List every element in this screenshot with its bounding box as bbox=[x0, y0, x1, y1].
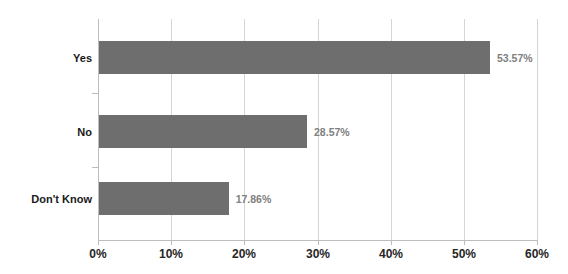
x-axis-tick-20 bbox=[244, 240, 245, 245]
bar-dont-know bbox=[98, 182, 229, 215]
bar-chart: 53.57% 28.57% 17.86% Yes No Don't Know 0… bbox=[0, 0, 568, 274]
x-tick-label-10: 10% bbox=[141, 248, 201, 260]
x-tick-label-40: 40% bbox=[361, 248, 421, 260]
plot-area: 53.57% 28.57% 17.86% bbox=[98, 19, 537, 240]
x-tick-label-30: 30% bbox=[288, 248, 348, 260]
y-axis-line bbox=[98, 19, 99, 241]
category-label-dont-know: Don't Know bbox=[0, 194, 92, 205]
x-tick-label-0: 0% bbox=[68, 248, 128, 260]
x-tick-label-50: 50% bbox=[434, 248, 494, 260]
y-axis-tick-2 bbox=[92, 167, 98, 168]
bar-value-dont-know: 17.86% bbox=[236, 194, 272, 205]
x-tick-label-60: 60% bbox=[507, 248, 567, 260]
bar-value-yes: 53.57% bbox=[497, 53, 533, 64]
bar-value-no: 28.57% bbox=[314, 127, 350, 138]
category-label-yes: Yes bbox=[0, 53, 92, 64]
bar-no bbox=[98, 115, 307, 148]
x-axis-tick-10 bbox=[171, 240, 172, 245]
x-axis-tick-50 bbox=[464, 240, 465, 245]
x-axis-tick-40 bbox=[391, 240, 392, 245]
x-axis-tick-0 bbox=[98, 240, 99, 245]
x-axis-tick-60 bbox=[537, 240, 538, 245]
y-axis-tick-1 bbox=[92, 93, 98, 94]
bar-yes bbox=[98, 41, 490, 74]
x-axis-tick-30 bbox=[318, 240, 319, 245]
x-tick-label-20: 20% bbox=[214, 248, 274, 260]
gridline-60 bbox=[537, 19, 538, 240]
category-label-no: No bbox=[0, 127, 92, 138]
